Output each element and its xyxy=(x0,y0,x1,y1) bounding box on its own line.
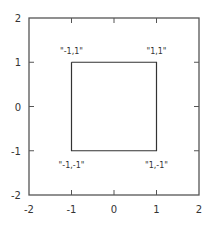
x-axis-tick-labels: -2-1012 xyxy=(24,204,202,215)
x-tick-label: 0 xyxy=(111,204,117,215)
y-tick-label: -2 xyxy=(11,190,21,201)
plot-border xyxy=(29,18,199,195)
point-annotations: "-1,1""1,1""-1,-1""1,-1" xyxy=(59,47,168,170)
y-tick-label: -1 xyxy=(11,146,21,157)
point-label: "-1,1" xyxy=(60,47,83,56)
y-tick-label: 0 xyxy=(15,102,21,113)
data-series xyxy=(72,62,157,151)
x-tick-label: 1 xyxy=(153,204,159,215)
x-tick-label: -1 xyxy=(67,204,77,215)
series-line-square xyxy=(72,62,157,151)
point-label: "-1,-1" xyxy=(59,161,85,170)
x-tick-label: -2 xyxy=(24,204,34,215)
square-plot: -2-1012 -2-1012 "-1,1""1,1""-1,-1""1,-1" xyxy=(0,0,213,226)
x-tick-label: 2 xyxy=(196,204,202,215)
plot-frame xyxy=(29,18,199,195)
y-tick-label: 2 xyxy=(15,13,21,24)
point-label: "1,-1" xyxy=(145,161,168,170)
y-axis-tick-labels: -2-1012 xyxy=(11,13,21,201)
axis-ticks xyxy=(29,18,199,195)
y-tick-label: 1 xyxy=(15,57,21,68)
point-label: "1,1" xyxy=(146,47,166,56)
